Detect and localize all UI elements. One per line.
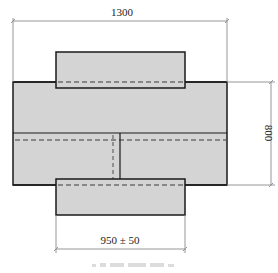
dimension-label-1300: 1300	[111, 6, 134, 18]
dimension-label-800: 800	[263, 125, 275, 142]
dimension-label-950: 950 ± 50	[100, 234, 140, 246]
caption-smudge	[92, 263, 174, 267]
cross-section-drawing: 1300 800 950 ± 50	[0, 0, 278, 273]
